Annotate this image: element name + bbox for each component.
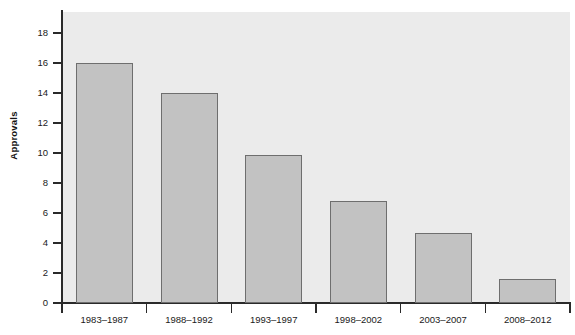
y-axis-line: [61, 10, 63, 304]
x-tick-mark: [400, 304, 402, 313]
x-tick-label: 2003–2007: [398, 314, 488, 325]
y-axis-title: Approvals: [8, 91, 19, 181]
y-tick-label: 4: [22, 237, 48, 248]
y-tick-label: 18: [22, 27, 48, 38]
y-tick-mark: [53, 152, 62, 154]
x-tick-mark: [231, 304, 233, 313]
bar: [245, 155, 302, 304]
x-tick-label: 2008–2012: [483, 314, 573, 325]
y-tick-mark: [53, 182, 62, 184]
bar: [161, 93, 218, 303]
x-tick-mark: [315, 304, 317, 313]
y-tick-label: 16: [22, 57, 48, 68]
y-tick-label: 0: [22, 297, 48, 308]
y-tick-mark: [53, 272, 62, 274]
y-tick-mark: [53, 62, 62, 64]
y-tick-label: 6: [22, 207, 48, 218]
y-tick-mark: [53, 32, 62, 34]
y-tick-mark: [53, 242, 62, 244]
x-tick-mark: [485, 304, 487, 313]
x-tick-label: 1988–1992: [144, 314, 234, 325]
x-tick-label: 1998–2002: [313, 314, 403, 325]
x-tick-mark: [61, 304, 63, 313]
plot-panel: [62, 12, 570, 303]
y-tick-label: 2: [22, 267, 48, 278]
bar: [76, 63, 133, 303]
y-tick-mark: [53, 92, 62, 94]
bar: [415, 233, 472, 304]
x-tick-mark: [569, 304, 571, 313]
y-tick-mark: [53, 212, 62, 214]
x-tick-mark: [146, 304, 148, 313]
x-tick-label: 1983–1987: [59, 314, 149, 325]
y-tick-label: 14: [22, 87, 48, 98]
bar: [330, 201, 387, 303]
y-tick-label: 12: [22, 117, 48, 128]
bar-chart: Approvals 024681012141618 1983–19871988–…: [0, 0, 575, 335]
y-tick-mark: [53, 122, 62, 124]
y-tick-label: 10: [22, 147, 48, 158]
bar: [499, 279, 556, 303]
x-tick-label: 1993–1997: [229, 314, 319, 325]
y-tick-label: 8: [22, 177, 48, 188]
